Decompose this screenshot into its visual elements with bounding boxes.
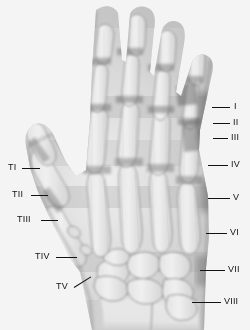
leader-line-i xyxy=(212,107,230,108)
annotation-label-ti: TI xyxy=(8,163,16,172)
annotation-label-ii: II xyxy=(233,118,238,127)
annotation-label-tii: TII xyxy=(12,190,23,199)
annotation-label-v: V xyxy=(233,193,239,202)
annotation-label-iii: III xyxy=(231,133,239,142)
leader-line-tiii xyxy=(41,220,58,221)
leader-line-ti xyxy=(22,168,40,169)
annotation-label-tiv: TIV xyxy=(35,252,50,261)
leader-line-vii xyxy=(200,270,225,271)
leader-line-ii xyxy=(213,123,230,124)
leader-line-tii xyxy=(31,195,48,196)
leader-line-viii xyxy=(192,302,221,303)
leader-line-iii xyxy=(213,138,228,139)
leader-line-tiv xyxy=(56,257,77,258)
annotation-label-tiii: TIII xyxy=(17,215,31,224)
annotation-label-vii: VII xyxy=(228,265,240,274)
annotation-label-tv: TV xyxy=(56,282,68,291)
annotation-label-viii: VIII xyxy=(224,297,238,306)
annotation-label-i: I xyxy=(234,102,237,111)
leader-line-vi xyxy=(206,233,227,234)
hand-radiograph-figure: TITIITIIITIVTVIIIIIIIVVVIVIIVIII xyxy=(0,0,250,330)
annotation-label-vi: VI xyxy=(230,228,239,237)
annotation-label-iv: IV xyxy=(231,160,240,169)
leader-line-iv xyxy=(208,165,228,166)
leader-line-v xyxy=(208,198,230,199)
